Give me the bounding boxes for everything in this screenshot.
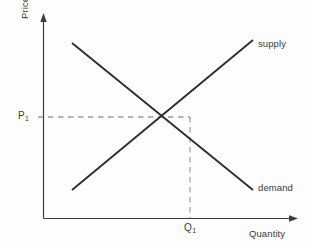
figure-canvas: Price supply demand Quantity P1 Q1 xyxy=(0,0,313,247)
supply-curve-label: supply xyxy=(258,38,286,49)
equilibrium-quantity-symbol: Q xyxy=(184,222,192,233)
equilibrium-price-symbol: P xyxy=(18,110,25,121)
x-axis-label: Quantity xyxy=(249,228,285,239)
curves-group xyxy=(72,40,253,190)
x-axis-arrowhead xyxy=(289,215,298,221)
y-axis-label: Price xyxy=(19,0,30,19)
equilibrium-guides xyxy=(38,117,190,218)
demand-curve-label: demand xyxy=(258,182,293,193)
equilibrium-price-label: P1 xyxy=(18,110,29,121)
y-axis-arrowhead xyxy=(40,13,46,22)
equilibrium-price-subscript: 1 xyxy=(25,115,29,122)
equilibrium-quantity-label: Q1 xyxy=(184,222,196,233)
equilibrium-quantity-subscript: 1 xyxy=(192,227,196,234)
